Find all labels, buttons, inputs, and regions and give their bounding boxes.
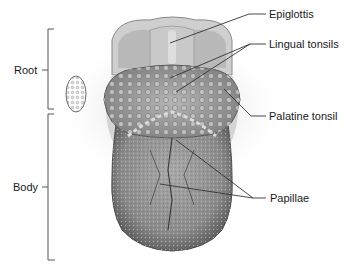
root-bracket <box>42 29 54 109</box>
label-papillae: Papillae <box>270 192 309 204</box>
tongue-diagram: Root Body Epiglottis Lingual tonsils Pal… <box>0 0 347 269</box>
label-palatine-tonsil: Palatine tonsil <box>269 110 338 122</box>
label-lingual-tonsils: Lingual tonsils <box>269 38 339 50</box>
palatine-tonsil-left <box>66 76 86 112</box>
label-root: Root <box>14 64 37 76</box>
label-epiglottis: Epiglottis <box>269 8 314 20</box>
label-body: Body <box>13 181 38 193</box>
body-bracket <box>42 114 55 260</box>
